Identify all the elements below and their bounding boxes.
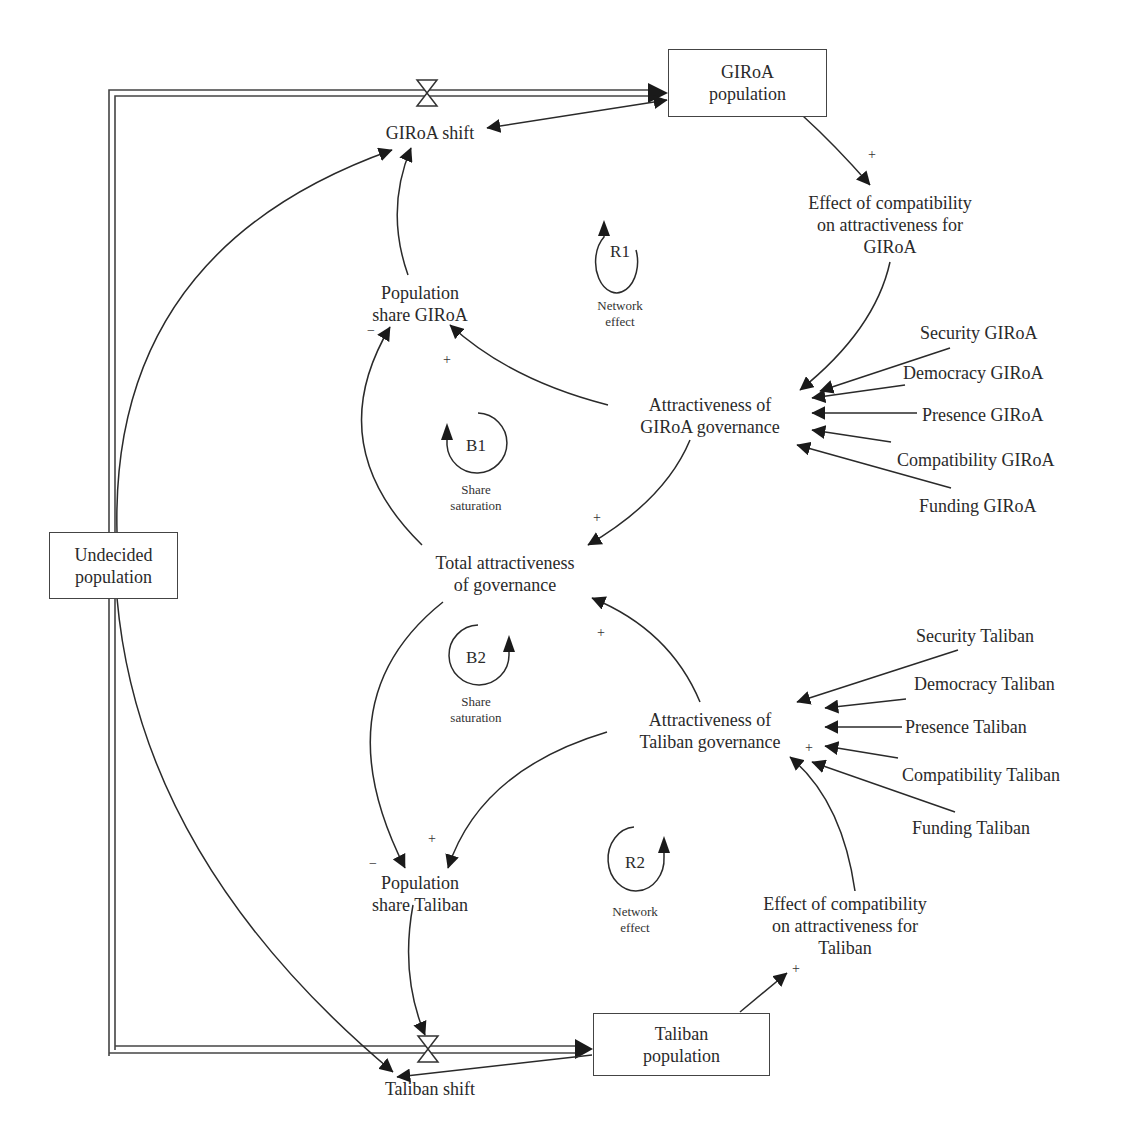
stock-giroa-population-label: GIRoA population xyxy=(709,61,786,105)
input-democracy-giroa[interactable]: Democracy GIRoA xyxy=(903,362,1043,384)
link-attr-giroa-total[interactable] xyxy=(588,440,690,545)
link-total-share-giroa[interactable] xyxy=(362,327,422,545)
polarity-giroa-pop-effect: + xyxy=(868,148,876,162)
link-undecided-taliban-shift[interactable] xyxy=(117,598,393,1072)
var-population-share-giroa[interactable]: Population share GIRoA xyxy=(345,282,495,326)
polarity-attr-share-giroa: + xyxy=(443,353,451,367)
loop-b2-name: Share saturation xyxy=(436,694,516,726)
input-democracy-taliban[interactable]: Democracy Taliban xyxy=(914,673,1055,695)
stock-undecided-population[interactable]: Undecided population xyxy=(49,532,178,599)
input-security-giroa[interactable]: Security GIRoA xyxy=(920,322,1037,344)
link-compatibility-giroa[interactable] xyxy=(812,430,891,442)
loop-r2-name: Network effect xyxy=(595,904,675,936)
link-compatibility-taliban[interactable] xyxy=(825,746,898,758)
link-effect-attr-giroa[interactable] xyxy=(800,262,890,390)
link-share-taliban-shift[interactable] xyxy=(409,905,425,1035)
link-attr-share-taliban[interactable] xyxy=(448,732,607,868)
link-giroa-pop-effect[interactable] xyxy=(803,116,870,185)
link-effect-attr-taliban[interactable] xyxy=(790,757,855,891)
giroa-valve-icon[interactable] xyxy=(417,80,437,106)
var-attractiveness-giroa[interactable]: Attractiveness of GIRoA governance xyxy=(610,394,810,438)
link-attr-share-giroa[interactable] xyxy=(450,325,608,405)
loop-b1-id: B1 xyxy=(456,435,496,457)
stock-undecided-population-label: Undecided population xyxy=(75,544,153,588)
var-total-attractiveness[interactable]: Total attractiveness of governance xyxy=(410,552,600,596)
var-attractiveness-taliban[interactable]: Attractiveness of Taliban governance xyxy=(610,709,810,753)
var-effect-taliban[interactable]: Effect of compatibility on attractivenes… xyxy=(730,893,960,959)
flow-giroa-shift-label[interactable]: GIRoA shift xyxy=(370,122,490,144)
link-attr-taliban-total[interactable] xyxy=(592,598,700,702)
link-share-giroa-shift[interactable] xyxy=(397,148,411,275)
polarity-effect-attr-taliban: + xyxy=(805,741,813,755)
loop-b2-id: B2 xyxy=(456,647,496,669)
taliban-valve-icon[interactable] xyxy=(418,1036,438,1062)
polarity-attr-taliban-total: + xyxy=(597,626,605,640)
link-undecided-giroa-shift[interactable] xyxy=(117,150,392,532)
polarity-total-share-taliban: − xyxy=(369,857,377,871)
input-funding-giroa[interactable]: Funding GIRoA xyxy=(919,495,1037,517)
input-security-taliban[interactable]: Security Taliban xyxy=(916,625,1034,647)
var-population-share-taliban[interactable]: Population share Taliban xyxy=(345,872,495,916)
input-presence-giroa[interactable]: Presence GIRoA xyxy=(922,404,1043,426)
link-total-share-taliban[interactable] xyxy=(370,602,443,868)
loop-r1-id: R1 xyxy=(600,241,640,263)
loop-r1-name: Network effect xyxy=(580,298,660,330)
stock-taliban-population-label: Taliban population xyxy=(643,1023,720,1067)
link-democracy-taliban[interactable] xyxy=(825,699,906,708)
polarity-attr-giroa-total: + xyxy=(593,511,601,525)
input-presence-taliban[interactable]: Presence Taliban xyxy=(905,716,1027,738)
loop-b1-name: Share saturation xyxy=(436,482,516,514)
link-taliban-pop-effect[interactable] xyxy=(740,973,787,1012)
input-funding-taliban[interactable]: Funding Taliban xyxy=(912,817,1030,839)
stock-taliban-population[interactable]: Taliban population xyxy=(593,1013,770,1076)
loop-r2-id: R2 xyxy=(615,852,655,874)
polarity-taliban-pop-effect: + xyxy=(792,962,800,976)
input-compatibility-giroa[interactable]: Compatibility GIRoA xyxy=(897,449,1055,471)
polarity-attr-share-taliban: + xyxy=(428,832,436,846)
input-compatibility-taliban[interactable]: Compatibility Taliban xyxy=(902,764,1060,786)
link-giroa-pop-shift[interactable] xyxy=(487,100,667,128)
flow-taliban-shift-label[interactable]: Taliban shift xyxy=(370,1078,490,1100)
stock-giroa-population[interactable]: GIRoA population xyxy=(668,49,827,117)
polarity-total-share-giroa: − xyxy=(367,324,375,338)
var-effect-giroa[interactable]: Effect of compatibility on attractivenes… xyxy=(775,192,1005,258)
link-democracy-giroa[interactable] xyxy=(812,385,905,398)
